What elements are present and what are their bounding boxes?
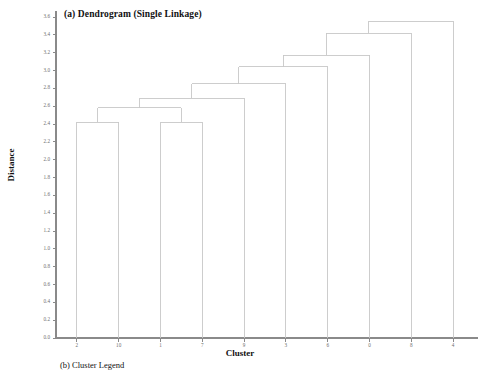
- y-tick-label: 0.8: [18, 264, 50, 269]
- y-axis-title: Distance: [6, 130, 16, 200]
- y-tick-label: 1.4: [18, 211, 50, 216]
- axis-lines: [56, 11, 478, 338]
- y-tick-label: 1.6: [18, 193, 50, 198]
- x-axis-title: Cluster: [0, 348, 480, 358]
- x-tick-label: 2: [76, 343, 79, 348]
- dendrogram-links: [77, 21, 453, 338]
- x-tick-label: 8: [410, 343, 413, 348]
- y-tick-label: 3.2: [18, 50, 50, 55]
- y-tick-label: 1.0: [18, 246, 50, 251]
- panel-b-caption: (b) Cluster Legend: [60, 360, 124, 370]
- y-tick-label: 0.0: [18, 335, 50, 340]
- axis-ticks: [53, 17, 454, 342]
- y-tick-label: 1.2: [18, 228, 50, 233]
- y-tick-label: 2.0: [18, 157, 50, 162]
- y-tick-label: 2.2: [18, 139, 50, 144]
- y-tick-label: 1.8: [18, 175, 50, 180]
- y-tick-label: 0.2: [18, 318, 50, 323]
- dendrogram-figure: (a) Dendrogram (Single Linkage) Cluster …: [0, 0, 480, 375]
- x-tick-label: 4: [452, 343, 455, 348]
- y-tick-label: 3.6: [18, 14, 50, 19]
- x-tick-label: 1: [159, 343, 162, 348]
- y-tick-label: 0.6: [18, 282, 50, 287]
- x-tick-label: 7: [201, 343, 204, 348]
- x-tick-label: 10: [116, 343, 121, 348]
- x-tick-label: 6: [326, 343, 329, 348]
- x-tick-label: 0: [368, 343, 371, 348]
- y-tick-label: 2.6: [18, 104, 50, 109]
- y-tick-label: 0.4: [18, 300, 50, 305]
- panel-a-title: (a) Dendrogram (Single Linkage): [64, 9, 202, 19]
- y-tick-label: 2.4: [18, 121, 50, 126]
- x-tick-label: 3: [285, 343, 288, 348]
- x-tick-label: 9: [243, 343, 246, 348]
- y-tick-label: 3.4: [18, 32, 50, 37]
- dendrogram-plot: [0, 0, 480, 375]
- y-tick-label: 2.8: [18, 86, 50, 91]
- y-tick-label: 3.0: [18, 68, 50, 73]
